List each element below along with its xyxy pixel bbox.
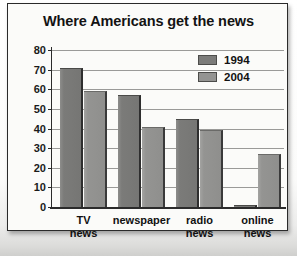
y-axis-tick-label: 40 xyxy=(34,123,46,135)
y-axis-tick xyxy=(48,187,52,188)
x-axis-category-label: TVnews xyxy=(70,214,98,241)
legend-label: 2004 xyxy=(224,71,250,83)
y-axis-tick-label: 30 xyxy=(34,142,46,154)
bar-online-news-1994 xyxy=(234,205,257,207)
y-axis-tick-label: 10 xyxy=(34,181,46,193)
bar-newspaper-2004 xyxy=(142,127,165,207)
x-axis-category-label: onlinenews xyxy=(241,214,273,241)
legend-item-2004: 2004 xyxy=(198,68,276,85)
chart-title: Where Americans get the news xyxy=(8,13,289,29)
y-axis-tick-label: 50 xyxy=(34,103,46,115)
chart-page: Where Americans get the news Percent of … xyxy=(0,0,297,256)
bar-radio-news-2004 xyxy=(200,130,223,207)
gridline xyxy=(52,89,284,90)
legend-swatch-icon xyxy=(198,72,217,82)
y-axis-tick-label: 20 xyxy=(34,162,46,174)
y-axis-tick xyxy=(48,207,52,208)
x-axis-line xyxy=(50,207,286,209)
y-axis-tick-label: 0 xyxy=(40,201,46,213)
legend-swatch-icon xyxy=(198,55,217,65)
y-axis-tick-label: 70 xyxy=(34,64,46,76)
chart-legend: 19942004 xyxy=(198,51,276,85)
bar-TV-news-1994 xyxy=(60,68,83,207)
y-axis-tick-label: 80 xyxy=(34,44,46,56)
y-axis-tick xyxy=(48,168,52,169)
y-axis-tick xyxy=(48,148,52,149)
y-axis-tick xyxy=(48,50,52,51)
legend-label: 1994 xyxy=(224,54,250,66)
bar-newspaper-1994 xyxy=(118,95,141,207)
y-axis-tick-label: 60 xyxy=(34,83,46,95)
y-axis-line xyxy=(51,47,53,207)
y-axis-tick xyxy=(48,109,52,110)
chart-frame: Where Americans get the news Percent of … xyxy=(7,3,288,231)
y-axis-tick xyxy=(48,70,52,71)
bar-radio-news-1994 xyxy=(176,119,199,207)
x-axis-category-label: newspaper xyxy=(113,214,170,227)
y-axis-tick xyxy=(48,129,52,130)
legend-item-1994: 1994 xyxy=(198,51,276,68)
bar-online-news-2004 xyxy=(258,154,281,207)
x-axis-category-label: radionews xyxy=(186,214,214,241)
y-axis-tick xyxy=(48,89,52,90)
bar-TV-news-2004 xyxy=(84,91,107,207)
